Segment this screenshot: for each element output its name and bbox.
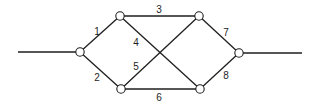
node-top-right [195,12,203,20]
network-diagram: 1 2 3 4 5 6 7 8 [0,0,318,103]
node-top-left [116,12,124,20]
node-bottom-right [196,85,204,93]
edge-7 [199,16,239,53]
edge-label-8: 8 [223,70,229,81]
edge-label-5: 5 [133,61,139,72]
edge-labels: 1 2 3 4 5 6 7 8 [94,4,229,103]
node-right [235,49,243,57]
edge-2 [80,52,121,89]
edges [80,16,239,89]
edge-label-2: 2 [94,72,100,83]
edge-label-4: 4 [133,37,139,48]
edge-label-1: 1 [94,26,100,37]
edge-1 [80,16,120,52]
node-bottom-left [117,85,125,93]
edge-label-7: 7 [223,27,229,38]
edge-8 [200,53,239,89]
edge-label-3: 3 [156,4,162,15]
node-left [76,48,84,56]
edge-label-6: 6 [156,92,162,103]
